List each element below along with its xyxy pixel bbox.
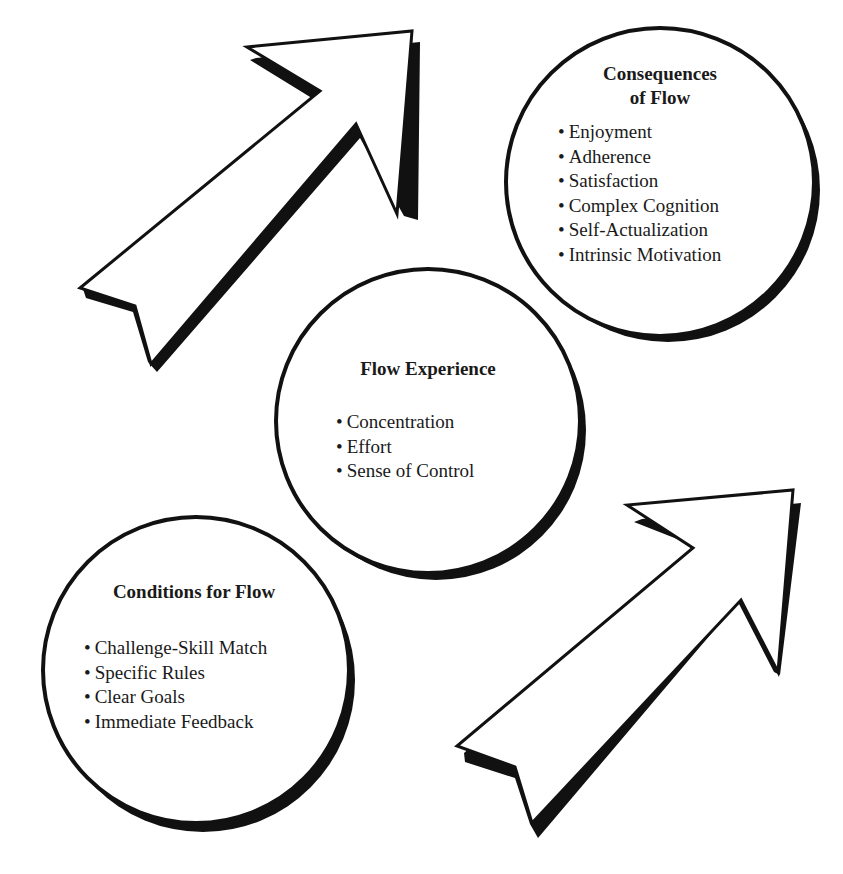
list-item: Concentration (336, 410, 474, 435)
consequences-title-line1: Consequences (560, 62, 760, 86)
conditions-title: Conditions for Flow (84, 580, 304, 604)
list-item: Complex Cognition (558, 194, 721, 219)
list-item: Enjoyment (558, 120, 721, 145)
conditions-list: Challenge-Skill Match Specific Rules Cle… (84, 636, 267, 734)
experience-list: Concentration Effort Sense of Control (336, 410, 474, 484)
experience-title: Flow Experience (328, 357, 528, 381)
list-item: Specific Rules (84, 661, 267, 686)
list-item: Adherence (558, 145, 721, 170)
list-item: Effort (336, 435, 474, 460)
list-item: Satisfaction (558, 169, 721, 194)
list-item: Intrinsic Motivation (558, 243, 721, 268)
list-item: Sense of Control (336, 459, 474, 484)
list-item: Clear Goals (84, 685, 267, 710)
consequences-title: Consequences of Flow (560, 62, 760, 110)
list-item: Immediate Feedback (84, 710, 267, 735)
list-item: Challenge-Skill Match (84, 636, 267, 661)
consequences-title-line2: of Flow (560, 86, 760, 110)
consequences-list: Enjoyment Adherence Satisfaction Complex… (558, 120, 721, 267)
list-item: Self-Actualization (558, 218, 721, 243)
